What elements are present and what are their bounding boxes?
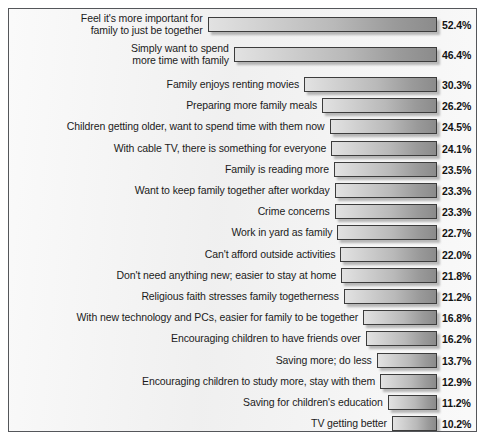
bar-row: With new technology and PCs, easier for … bbox=[363, 310, 437, 326]
bar-category-label: Want to keep family together after workd… bbox=[8, 185, 335, 197]
bar-category-label: Encouraging children to study more, stay… bbox=[8, 376, 380, 388]
bar-value-label: 21.2% bbox=[442, 291, 471, 303]
bar-value-label: 16.8% bbox=[442, 312, 471, 324]
bar bbox=[366, 331, 437, 346]
bar bbox=[392, 416, 437, 431]
bar-category-label: Saving more; do less bbox=[8, 355, 377, 367]
chart-frame: Feel it's more important for family to j… bbox=[8, 8, 477, 432]
bar-value-label: 22.0% bbox=[442, 249, 471, 261]
bar-value-label: 24.1% bbox=[442, 143, 471, 155]
bar bbox=[208, 17, 437, 32]
bar bbox=[330, 119, 437, 134]
bar-row: Simply want to spend more time with fami… bbox=[234, 47, 437, 63]
bar-row: Religious faith stresses family together… bbox=[344, 289, 437, 305]
bar-row: Feel it's more important for family to j… bbox=[208, 17, 437, 33]
bar-row: Can't afford outside activities22.0% bbox=[340, 247, 437, 263]
bar-row: Encouraging children to have friends ove… bbox=[366, 331, 437, 347]
bar-value-label: 26.2% bbox=[442, 100, 471, 112]
bar bbox=[322, 98, 437, 113]
bar-row: Saving for children's education11.2% bbox=[388, 395, 437, 411]
bar-value-label: 24.5% bbox=[442, 121, 471, 133]
bar-value-label: 30.3% bbox=[442, 79, 471, 91]
bar bbox=[377, 353, 437, 368]
bar-category-label: Religious faith stresses family together… bbox=[8, 291, 344, 303]
bar-row: Encouraging children to study more, stay… bbox=[380, 374, 437, 390]
bar bbox=[304, 77, 437, 92]
bar bbox=[363, 310, 437, 325]
bar-value-label: 16.2% bbox=[442, 333, 471, 345]
bar-category-label: Don't need anything new; easier to stay … bbox=[8, 270, 341, 282]
bar-row: Don't need anything new; easier to stay … bbox=[341, 268, 437, 284]
bar-category-label: TV getting better bbox=[8, 418, 392, 430]
bar bbox=[331, 141, 437, 156]
bar bbox=[388, 395, 437, 410]
bar-row: Family is reading more23.5% bbox=[334, 162, 437, 178]
bar-rows: Feel it's more important for family to j… bbox=[9, 9, 476, 431]
bar bbox=[380, 374, 437, 389]
bar-category-label: Feel it's more important for family to j… bbox=[8, 13, 208, 36]
bar-category-label: Work in yard as family bbox=[8, 228, 337, 240]
bar-category-label: Encouraging children to have friends ove… bbox=[8, 334, 366, 346]
bar-category-label: Can't afford outside activities bbox=[8, 249, 340, 261]
bar-value-label: 23.3% bbox=[442, 206, 471, 218]
bar-value-label: 46.4% bbox=[442, 49, 471, 61]
bar-row: Work in yard as family22.7% bbox=[337, 225, 437, 241]
bar-value-label: 52.4% bbox=[442, 19, 471, 31]
bar-value-label: 11.2% bbox=[442, 397, 471, 409]
bar-row: Want to keep family together after workd… bbox=[335, 183, 437, 199]
bar-category-label: Simply want to spend more time with fami… bbox=[8, 43, 234, 66]
bar-row: With cable TV, there is something for ev… bbox=[331, 141, 437, 157]
bar bbox=[344, 289, 437, 304]
bar-category-label: With cable TV, there is something for ev… bbox=[8, 143, 331, 155]
bar-category-label: Family enjoys renting movies bbox=[8, 79, 304, 91]
bar-value-label: 22.7% bbox=[442, 227, 471, 239]
bar-category-label: With new technology and PCs, easier for … bbox=[8, 312, 363, 324]
bar-value-label: 23.5% bbox=[442, 164, 471, 176]
bar-value-label: 13.7% bbox=[442, 355, 471, 367]
bar bbox=[337, 225, 437, 240]
bar-row: Preparing more family meals26.2% bbox=[322, 98, 437, 114]
bar-row: Crime concerns23.3% bbox=[335, 204, 437, 220]
bar-category-label: Preparing more family meals bbox=[8, 100, 322, 112]
bar-category-label: Crime concerns bbox=[8, 206, 335, 218]
bar-category-label: Children getting older, want to spend ti… bbox=[8, 122, 330, 134]
bar bbox=[234, 47, 437, 62]
bar-category-label: Family is reading more bbox=[8, 164, 334, 176]
bar-row: TV getting better10.2% bbox=[392, 416, 437, 432]
bar bbox=[340, 247, 437, 262]
bar-category-label: Saving for children's education bbox=[8, 397, 388, 409]
bar bbox=[335, 204, 437, 219]
bar-value-label: 10.2% bbox=[442, 418, 471, 430]
bar bbox=[334, 162, 437, 177]
bar-row: Family enjoys renting movies30.3% bbox=[304, 77, 437, 93]
bar-row: Children getting older, want to spend ti… bbox=[330, 119, 437, 135]
bar bbox=[335, 183, 437, 198]
bar-row: Saving more; do less13.7% bbox=[377, 353, 437, 369]
bar-value-label: 12.9% bbox=[442, 376, 471, 388]
bar bbox=[341, 268, 437, 283]
bar-value-label: 23.3% bbox=[442, 185, 471, 197]
bar-value-label: 21.8% bbox=[442, 270, 471, 282]
